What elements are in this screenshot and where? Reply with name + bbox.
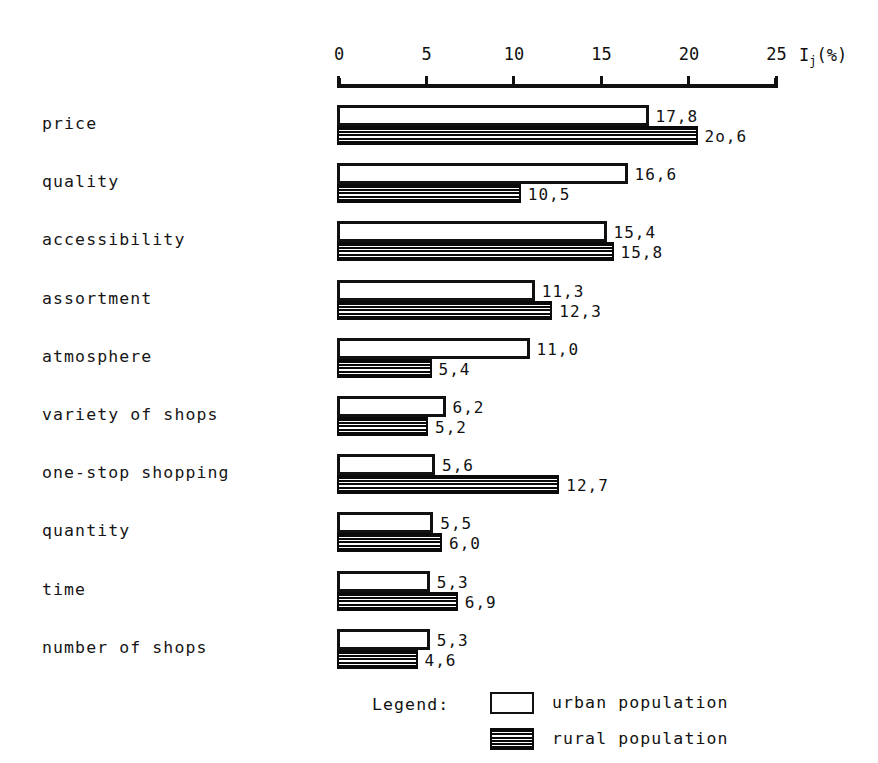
bar-urban	[337, 105, 649, 126]
axis-tick-label-20: 20	[679, 44, 699, 64]
category-label: price	[42, 114, 97, 133]
category-label: number of shops	[42, 638, 208, 657]
bar-value-label-rural: 6,0	[449, 534, 481, 553]
bar-rural	[337, 184, 521, 203]
bar-rural	[337, 126, 698, 145]
bar-value-label-rural: 5,4	[439, 360, 471, 379]
legend-title: Legend:	[372, 695, 449, 714]
category-label: atmosphere	[42, 347, 152, 366]
bar-rural	[337, 242, 614, 261]
axis-tick-label-25: 25	[766, 44, 786, 64]
category-label: assortment	[42, 289, 152, 308]
bar-rural	[337, 533, 442, 552]
bar-rural	[337, 301, 552, 320]
bar-chart: 0510152025 Ij(%) price17,82o,6quality16,…	[0, 0, 878, 763]
axis-tick-label-0: 0	[334, 44, 344, 64]
bar-urban	[337, 221, 607, 242]
bar-urban	[337, 163, 628, 184]
legend-swatch-urban	[490, 692, 534, 714]
bar-value-label-rural: 15,8	[621, 243, 664, 262]
bar-value-label-urban: 17,8	[656, 107, 699, 126]
bar-value-label-urban: 5,5	[440, 514, 472, 533]
axis-title-main: I	[799, 45, 809, 65]
axis-title: Ij(%)	[799, 45, 847, 68]
bar-rural	[337, 417, 428, 436]
bar-urban	[337, 629, 430, 650]
bar-value-label-urban: 5,3	[437, 631, 469, 650]
bar-value-label-urban: 11,0	[537, 340, 580, 359]
bar-urban	[337, 338, 530, 359]
bar-value-label-rural: 4,6	[425, 651, 457, 670]
category-label: one-stop shopping	[42, 463, 230, 482]
bar-value-label-urban: 5,3	[437, 573, 469, 592]
axis-tick-15	[600, 76, 603, 85]
bar-rural	[337, 359, 432, 378]
bar-value-label-rural: 12,3	[559, 302, 602, 321]
bar-value-label-urban: 15,4	[614, 223, 657, 242]
axis-tick-25	[775, 76, 778, 85]
category-label: quantity	[42, 521, 130, 540]
legend: Legend: urban population rural populatio…	[372, 690, 812, 756]
axis-tick-label-5: 5	[421, 44, 431, 64]
axis-line	[337, 84, 778, 88]
legend-label-rural: rural population	[552, 729, 729, 748]
bar-value-label-rural: 2o,6	[705, 127, 748, 146]
axis-tick-0	[337, 76, 340, 85]
axis-tick-label-15: 15	[591, 44, 611, 64]
bar-urban	[337, 512, 433, 533]
axis-tick-20	[687, 76, 690, 85]
bar-urban	[337, 454, 435, 475]
axis-tick-10	[512, 76, 515, 85]
category-label: variety of shops	[42, 405, 219, 424]
bar-value-label-urban: 6,2	[453, 398, 485, 417]
bar-value-label-rural: 5,2	[435, 418, 467, 437]
axis-title-unit: (%)	[816, 45, 847, 65]
bar-value-label-urban: 5,6	[442, 456, 474, 475]
bar-urban	[337, 571, 430, 592]
category-label: time	[42, 580, 86, 599]
bar-rural	[337, 475, 559, 494]
bar-value-label-rural: 12,7	[566, 476, 609, 495]
bar-rural	[337, 650, 418, 669]
bar-value-label-urban: 16,6	[635, 165, 678, 184]
bar-value-label-rural: 6,9	[465, 593, 497, 612]
bar-urban	[337, 280, 535, 301]
legend-swatch-rural	[490, 728, 534, 750]
axis-tick-label-10: 10	[504, 44, 524, 64]
axis-tick-5	[425, 76, 428, 85]
bar-value-label-urban: 11,3	[542, 282, 585, 301]
bar-urban	[337, 396, 446, 417]
bar-value-label-rural: 10,5	[528, 185, 571, 204]
x-axis: 0510152025 Ij(%)	[337, 44, 797, 96]
legend-label-urban: urban population	[552, 693, 729, 712]
category-label: accessibility	[42, 230, 185, 249]
bar-rural	[337, 592, 458, 611]
category-label: quality	[42, 172, 119, 191]
